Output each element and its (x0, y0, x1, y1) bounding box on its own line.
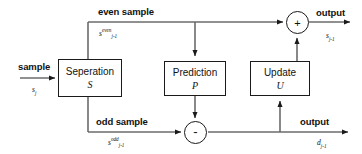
block-prediction-title: Prediction (173, 67, 217, 78)
output-top-label: output (316, 8, 345, 18)
even-signal-subscript: j-1 (111, 33, 117, 39)
block-update[interactable]: Update U (250, 61, 310, 96)
output-top-signal-subscript: j-1 (329, 36, 335, 42)
block-separation[interactable]: Seperation S (58, 59, 122, 97)
block-prediction-symbol: P (192, 80, 198, 91)
sum-node-sign: + (294, 17, 300, 29)
input-sample-label: sample (18, 62, 50, 72)
sum-node[interactable]: + (286, 11, 309, 34)
input-signal-subscript: j (35, 90, 36, 96)
lifting-scheme-diagram: Seperation S Prediction P Update U + - s… (0, 0, 362, 154)
difference-node-sign: - (193, 129, 197, 136)
odd-signal-subscript: j-1 (119, 142, 125, 148)
block-separation-title: Seperation (66, 66, 114, 77)
block-separation-symbol: S (88, 79, 93, 90)
difference-node[interactable]: - (184, 121, 207, 144)
output-bottom-signal-subscript: j-1 (321, 143, 327, 149)
odd-signal-label: soddj-1 (108, 137, 124, 148)
output-bottom-signal-label: dj-1 (317, 139, 327, 149)
block-update-symbol: U (276, 80, 283, 91)
block-prediction[interactable]: Prediction P (164, 61, 226, 96)
input-signal-label: sj (32, 86, 36, 96)
even-signal-label: sevenj-1 (99, 28, 117, 39)
odd-sample-label: odd sample (96, 117, 148, 127)
output-bottom-label: output (300, 117, 329, 127)
odd-signal-superscript: odd (111, 136, 119, 142)
output-top-signal-label: sj-1 (326, 32, 335, 42)
even-signal-superscript: even (102, 27, 112, 33)
block-update-title: Update (264, 67, 296, 78)
even-sample-label: even sample (98, 7, 154, 17)
